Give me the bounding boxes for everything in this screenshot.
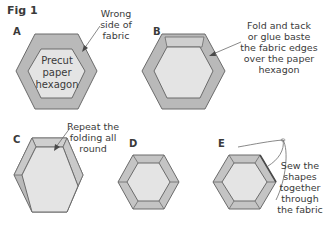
- note-b: Fold and tack or glue baste the fabric e…: [237, 20, 321, 75]
- note-e-line: shapes: [276, 171, 324, 182]
- note-b-line: Fold and tack: [237, 20, 321, 31]
- note-c: Repeat the folding all round: [64, 121, 122, 154]
- note-b-line: or glue baste: [237, 31, 321, 42]
- panel-label-c: C: [13, 134, 20, 145]
- hex-a-line: hexagon: [30, 79, 84, 91]
- note-c-line: Repeat the: [64, 121, 122, 132]
- figure-title: Fig 1: [7, 4, 38, 17]
- hexagon-d: [118, 155, 179, 209]
- note-a-line: side of: [94, 19, 138, 30]
- panel-label-b: B: [153, 26, 161, 37]
- note-e: Sew the shapes together through the fabr…: [276, 160, 324, 215]
- hexagon-b: [142, 34, 225, 109]
- note-e-line: through: [276, 193, 324, 204]
- note-a: Wrong side of fabric: [94, 8, 138, 41]
- hex-a-text: Precut paper hexagon: [30, 55, 84, 91]
- hexagon-e: [213, 155, 276, 209]
- note-e-line: together: [276, 182, 324, 193]
- note-c-line: round: [64, 143, 122, 154]
- hex-a-line: Precut: [30, 55, 84, 67]
- panel-label-d: D: [129, 138, 137, 149]
- note-e-line: the fabric: [276, 204, 324, 215]
- note-b-line: the fabric edges: [237, 42, 321, 53]
- note-b-line: over the paper: [237, 53, 321, 64]
- note-a-line: Wrong: [94, 8, 138, 19]
- hex-a-line: paper: [30, 67, 84, 79]
- note-c-line: folding all: [64, 132, 122, 143]
- note-e-line: Sew the: [276, 160, 324, 171]
- note-a-line: fabric: [94, 30, 138, 41]
- panel-label-a: A: [13, 26, 21, 37]
- panel-label-e: E: [218, 138, 225, 149]
- note-b-line: hexagon: [237, 64, 321, 75]
